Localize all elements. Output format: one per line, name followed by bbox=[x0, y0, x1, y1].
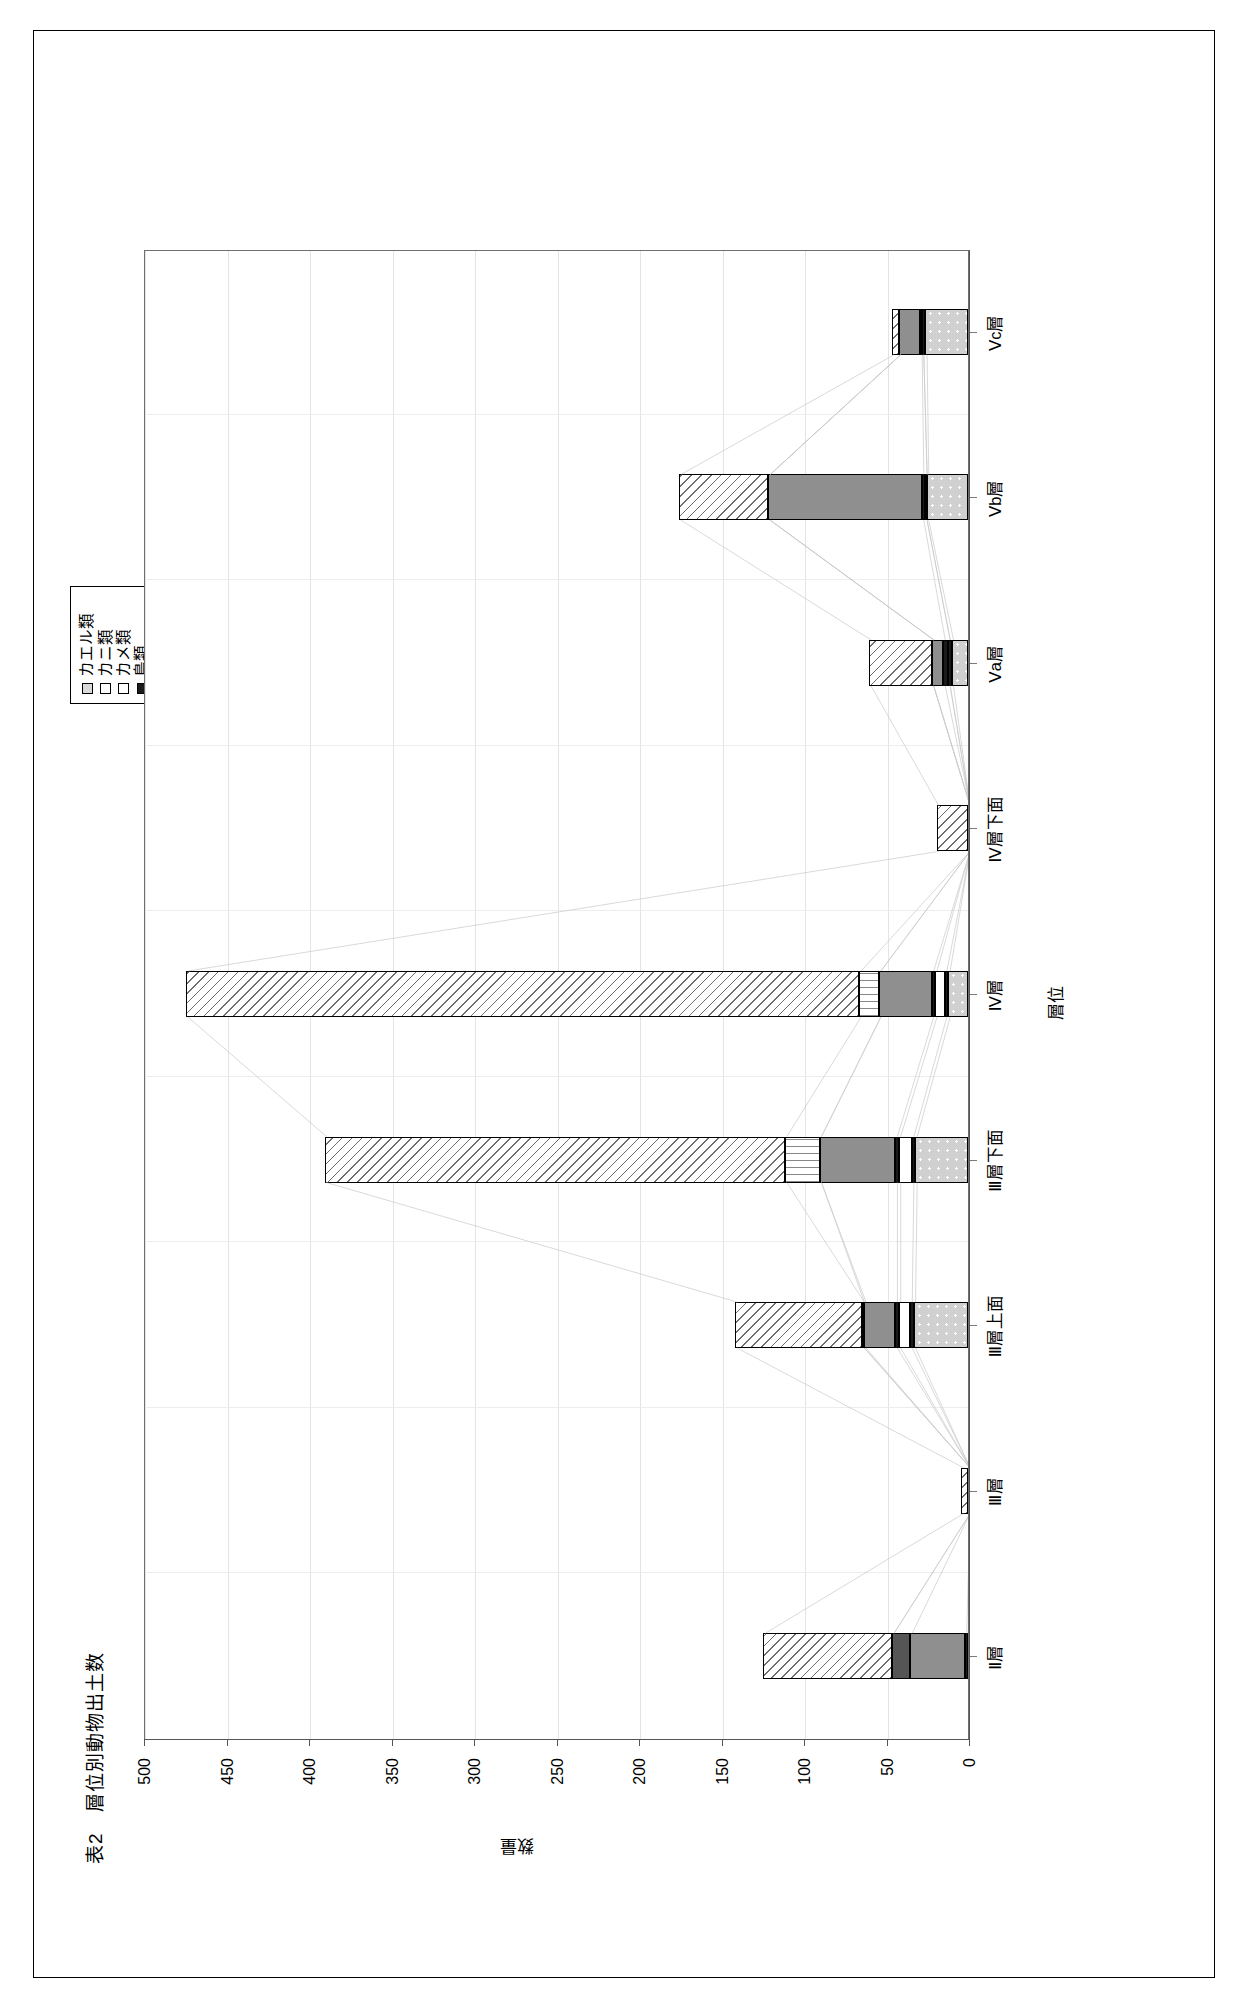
category-axis-tick-label: Ⅲ層 bbox=[982, 1411, 1006, 1571]
bar-segment bbox=[679, 474, 768, 520]
value-axis-tick-label: 450 bbox=[219, 1758, 237, 1796]
category-axis-tick bbox=[970, 1159, 977, 1160]
bar-segment bbox=[932, 971, 935, 1017]
plot-area bbox=[144, 250, 969, 1740]
bar-segment bbox=[899, 1136, 912, 1182]
bar-segment bbox=[912, 1136, 915, 1182]
legend-label: カエル類 bbox=[79, 613, 95, 677]
bar-stack bbox=[143, 308, 968, 354]
bar-segment bbox=[763, 1633, 892, 1679]
bar-segment bbox=[910, 1302, 913, 1348]
value-axis-tick-label: 500 bbox=[136, 1758, 154, 1796]
category-separator bbox=[145, 1406, 968, 1407]
legend-swatch-icon bbox=[82, 683, 93, 694]
value-axis-tick-label: 350 bbox=[384, 1758, 402, 1796]
bar-segment bbox=[325, 1136, 785, 1182]
bar-segment bbox=[945, 971, 948, 1017]
bar-segment bbox=[948, 639, 951, 685]
category-axis-tick bbox=[970, 1656, 977, 1657]
category-axis-tick-label: Ⅳ層 bbox=[982, 915, 1006, 1075]
bar-segment bbox=[895, 1302, 898, 1348]
legend-item: カエル類 bbox=[78, 597, 96, 694]
bar-segment bbox=[935, 971, 945, 1017]
bar-segment bbox=[869, 639, 932, 685]
legend-swatch-icon bbox=[118, 683, 129, 694]
value-axis-tick-label: 50 bbox=[879, 1758, 897, 1796]
value-axis-tick-label: 0 bbox=[961, 1758, 979, 1796]
category-axis-tick-label: Ⅲ層下面 bbox=[982, 1080, 1006, 1240]
bar-segment bbox=[932, 639, 944, 685]
value-axis-tick-label: 150 bbox=[714, 1758, 732, 1796]
value-axis-tick bbox=[557, 1740, 558, 1746]
bar-stack bbox=[143, 971, 968, 1017]
legend-item: カニ類 bbox=[96, 597, 114, 694]
value-axis-tick bbox=[722, 1740, 723, 1746]
category-separator bbox=[145, 910, 968, 911]
value-axis-tick bbox=[474, 1740, 475, 1746]
category-axis-tick-label: Ⅲ層上面 bbox=[982, 1246, 1006, 1406]
bar-segment bbox=[961, 1467, 968, 1513]
bar-segment bbox=[785, 1136, 820, 1182]
bar-segment bbox=[186, 971, 859, 1017]
bar-stack bbox=[143, 1633, 968, 1679]
bar-segment bbox=[892, 308, 899, 354]
bar-stack bbox=[143, 1302, 968, 1348]
category-axis-title: 層位 bbox=[1042, 986, 1067, 1020]
bar-segment bbox=[735, 1302, 862, 1348]
category-separator bbox=[145, 1075, 968, 1076]
category-separator bbox=[145, 579, 968, 580]
value-axis-tick-label: 400 bbox=[301, 1758, 319, 1796]
value-axis-tick-label: 250 bbox=[549, 1758, 567, 1796]
bar-segment bbox=[915, 1136, 968, 1182]
bar-segment bbox=[895, 1136, 898, 1182]
bar-stack bbox=[143, 1467, 968, 1513]
chart-title: 表2 層位別動物出土数 bbox=[80, 1652, 107, 1864]
bar-segment bbox=[914, 1302, 968, 1348]
category-axis-tick bbox=[970, 331, 977, 332]
bar-segment bbox=[899, 308, 920, 354]
figure-page: 表2 層位別動物出土数 カエル類カニ類カメ類鳥類イノシシ他海棲哺乳類その他魚類 … bbox=[0, 0, 1248, 2009]
bar-segment bbox=[937, 805, 968, 851]
bar-segment bbox=[892, 1633, 910, 1679]
category-separator bbox=[145, 1241, 968, 1242]
value-axis-tick bbox=[887, 1740, 888, 1746]
category-axis-tick bbox=[970, 497, 977, 498]
category-separator bbox=[145, 413, 968, 414]
bar-segment bbox=[965, 1633, 968, 1679]
legend-swatch-icon bbox=[100, 683, 111, 694]
value-axis-tick bbox=[144, 1740, 145, 1746]
bar-segment bbox=[864, 1302, 895, 1348]
bar-segment bbox=[925, 308, 968, 354]
bar-segment bbox=[922, 474, 925, 520]
value-axis-tick-label: 100 bbox=[796, 1758, 814, 1796]
category-axis-tick-label: Ⅴc層 bbox=[982, 252, 1006, 412]
category-axis-tick bbox=[970, 828, 977, 829]
bar-segment bbox=[879, 971, 932, 1017]
bar-segment bbox=[820, 1136, 896, 1182]
bar-segment bbox=[943, 639, 948, 685]
bar-segment bbox=[859, 971, 879, 1017]
category-axis-tick-label: Ⅴb層 bbox=[982, 418, 1006, 578]
legend-label: カメ類 bbox=[116, 629, 132, 677]
bar-segment bbox=[768, 474, 921, 520]
category-axis-tick-label: Ⅴa層 bbox=[982, 583, 1006, 743]
legend-item: カメ類 bbox=[115, 597, 133, 694]
category-axis-tick bbox=[970, 994, 977, 995]
value-axis-tick-label: 300 bbox=[466, 1758, 484, 1796]
bar-segment bbox=[922, 308, 925, 354]
bar-stack bbox=[143, 1136, 968, 1182]
category-separator bbox=[145, 1572, 968, 1573]
bar-stack bbox=[143, 639, 968, 685]
value-axis-tick bbox=[969, 1740, 970, 1746]
value-axis-tick bbox=[227, 1740, 228, 1746]
value-axis-tick bbox=[804, 1740, 805, 1746]
bar-segment bbox=[910, 1633, 964, 1679]
bar-segment bbox=[927, 474, 968, 520]
category-axis-tick-label: Ⅱ層 bbox=[982, 1577, 1006, 1737]
rotated-chart-canvas: 表2 層位別動物出土数 カエル類カニ類カメ類鳥類イノシシ他海棲哺乳類その他魚類 … bbox=[64, 110, 1184, 1900]
value-axis-title: 数量 bbox=[500, 1835, 534, 1860]
legend-label: カニ類 bbox=[98, 629, 114, 677]
bar-segment bbox=[948, 971, 968, 1017]
value-axis-tick bbox=[309, 1740, 310, 1746]
category-axis-tick bbox=[970, 1490, 977, 1491]
